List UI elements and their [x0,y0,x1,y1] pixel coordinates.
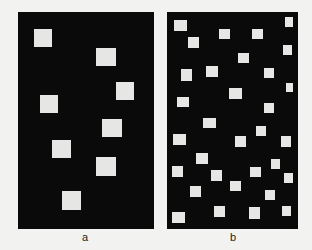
square [256,126,266,136]
panel-b-label: b [230,232,236,243]
square [264,103,274,113]
square [252,29,263,39]
panel-a-label: a [82,232,88,243]
square [181,69,192,81]
square [206,66,218,77]
square [172,166,183,177]
square [52,140,71,158]
square [250,167,261,177]
panel-a-sparse-large-squares [18,12,154,229]
square [102,119,122,137]
square [188,37,199,48]
square [34,29,52,47]
square [96,48,116,66]
square [116,82,134,100]
square [172,212,185,223]
square [196,153,208,164]
square [230,181,241,191]
square [177,97,189,107]
square [249,207,260,219]
square [62,191,81,210]
square [173,134,186,145]
square [214,206,225,217]
square [282,206,291,216]
square [271,159,280,169]
square [190,186,201,197]
square [235,136,246,147]
square [174,20,187,31]
square [96,157,116,176]
square [40,95,58,113]
square [285,17,293,27]
square [264,68,274,78]
square [281,136,291,147]
square [203,118,216,128]
square [283,45,292,55]
square [286,83,293,92]
square [284,173,293,183]
panel-b-dense-small-squares [167,12,298,229]
square [238,53,249,63]
square [211,170,222,181]
square [265,190,275,200]
square [219,29,230,39]
square [229,88,242,99]
